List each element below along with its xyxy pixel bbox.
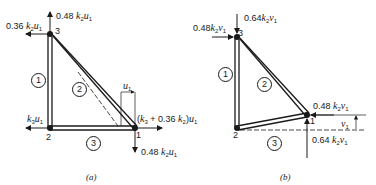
figure-a: [26, 12, 162, 152]
member-2-label-b: 2: [257, 77, 272, 92]
displacement-u1-label: u1: [123, 81, 131, 92]
node-2-label-a: 2: [46, 133, 51, 142]
node-3-label-b: 3: [238, 29, 243, 38]
member-1-label-a: 1: [31, 73, 46, 88]
force-node1-right-a: (k3 + 0.36 k2)u1: [137, 114, 197, 125]
node-1-label-a: 1: [136, 131, 141, 140]
member-3-label-b: 3: [267, 136, 282, 151]
force-node1-up-b: 0.64 k2v1: [312, 135, 348, 146]
force-node2-left-a: k3u1: [27, 114, 43, 125]
force-node1-down-a: 0.48 k2u1: [141, 147, 177, 158]
caption-b: (b): [280, 172, 291, 182]
member-2-label-a: 2: [72, 82, 87, 97]
force-node3-up-a: 0.48 k2u1: [56, 11, 92, 22]
node-2-label-b: 2: [233, 131, 238, 140]
member-3-label-a: 3: [86, 136, 101, 151]
displacement-v1-label: v1: [341, 119, 349, 130]
force-node3-down-b: 0.64k2v1: [244, 13, 277, 24]
force-node3-right-b: 0.48k2v1: [193, 23, 226, 34]
member-1-label-b: 1: [218, 67, 233, 82]
node-1-label-b: 1: [310, 117, 315, 126]
caption-a: (a): [86, 172, 97, 182]
node-3-label-a: 3: [55, 27, 60, 36]
force-node3-left-a: 0.36 k2u1: [6, 21, 42, 32]
force-node1-left-b: 0.48 k2v1: [313, 101, 349, 112]
